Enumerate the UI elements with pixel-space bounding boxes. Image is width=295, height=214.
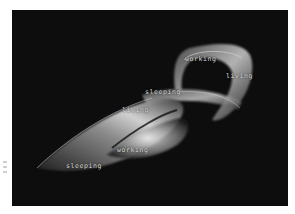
ribbon-render — [12, 10, 288, 206]
margin-mark — [3, 171, 7, 173]
margin-marks — [2, 158, 8, 184]
label-living-middle: living — [122, 106, 149, 114]
render-viewport: working living sleeping living working s… — [12, 10, 288, 206]
label-living-right: living — [226, 72, 253, 80]
label-sleeping-bottom: sleeping — [66, 162, 102, 170]
label-working-top: working — [185, 55, 217, 63]
margin-mark — [3, 166, 7, 168]
label-sleeping-middle: sleeping — [145, 88, 181, 96]
label-working-bottom: working — [117, 146, 149, 154]
margin-mark — [3, 161, 7, 163]
